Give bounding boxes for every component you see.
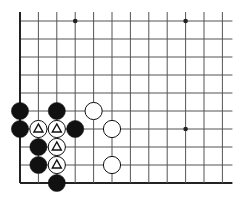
black-stone <box>30 156 47 173</box>
black-stone <box>11 102 28 119</box>
board-grid <box>20 12 232 183</box>
white-stone <box>103 156 120 173</box>
hoshi-dot-icon <box>73 19 78 24</box>
black-stone <box>48 102 65 119</box>
white-stone <box>85 102 102 119</box>
white-stone <box>103 120 120 137</box>
hoshi-dot-icon <box>183 19 188 24</box>
black-stone <box>48 174 65 191</box>
hoshi-dot-icon <box>183 127 188 132</box>
black-stone <box>67 120 84 137</box>
black-stone <box>11 120 28 137</box>
go-board <box>0 0 247 200</box>
black-stone <box>30 138 47 155</box>
